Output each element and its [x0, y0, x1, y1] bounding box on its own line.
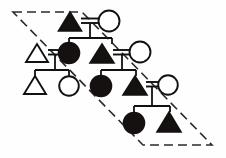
- person-g4-female-filled[interactable]: [124, 113, 145, 134]
- generation-1-group: [59, 11, 120, 45]
- person-g3-female-open[interactable]: [59, 76, 79, 96]
- person-g1-male-filled[interactable]: [59, 12, 82, 31]
- person-g2-female-open[interactable]: [130, 42, 151, 63]
- generation-4-group: [124, 112, 182, 134]
- kinship-canvas: [0, 0, 226, 158]
- kinship-diagram-root: [0, 0, 226, 158]
- person-g3-male-filled[interactable]: [123, 76, 147, 95]
- person-g4-male-filled[interactable]: [157, 112, 181, 132]
- person-g2-male-open[interactable]: [26, 44, 48, 62]
- person-g1-female-open[interactable]: [99, 11, 120, 32]
- marriage-tie-3: [113, 50, 130, 70]
- generation-3-group: [24, 75, 178, 112]
- descent-group-boundary: [13, 12, 212, 145]
- person-g3-female-open-spouse[interactable]: [158, 75, 178, 95]
- person-g3-male-open[interactable]: [24, 76, 46, 94]
- person-g2-male-filled[interactable]: [90, 44, 114, 63]
- sibship-bar-2: [35, 70, 69, 76]
- sibship-bar-3: [101, 70, 136, 76]
- generation-2-group: [26, 42, 151, 77]
- person-g2-female-filled[interactable]: [59, 43, 80, 64]
- marriage-tie-4: [146, 82, 159, 106]
- marriage-tie-1: [81, 19, 99, 39]
- sibship-bar-1: [69, 38, 112, 44]
- person-g3-female-filled[interactable]: [91, 76, 112, 97]
- sibship-bar-4: [134, 106, 170, 112]
